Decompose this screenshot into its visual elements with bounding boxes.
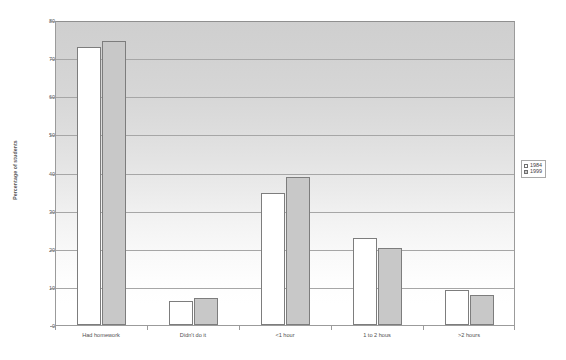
- y-tick-label: 50: [9, 132, 55, 138]
- y-tick-label: 30: [9, 209, 55, 215]
- y-tick-label: 70: [9, 56, 55, 62]
- gridline: [56, 59, 514, 60]
- y-axis: 01020304050607080: [0, 0, 55, 360]
- gridline: [56, 250, 514, 251]
- legend-label: 1999: [530, 169, 542, 174]
- x-axis-label: 1 to 2 hous: [363, 332, 391, 338]
- gridline: [56, 174, 514, 175]
- gridline: [56, 288, 514, 289]
- x-axis-label: <1 hour: [275, 332, 294, 338]
- x-tick-mark: [514, 326, 515, 330]
- legend-item-1999: 1999: [524, 169, 542, 174]
- plot-area: [55, 21, 515, 326]
- x-axis-label: Didn't do it: [180, 332, 206, 338]
- legend-swatch-1999-icon: [524, 170, 528, 174]
- x-axis-labels: Had homeworkDidn't do it<1 hour1 to 2 ho…: [55, 332, 515, 350]
- y-tick-label: 10: [9, 285, 55, 291]
- y-tick-label: 60: [9, 94, 55, 100]
- x-tick-mark: [423, 326, 424, 330]
- y-tick-label: 20: [9, 247, 55, 253]
- gridline: [56, 212, 514, 213]
- x-tick-mark: [331, 326, 332, 330]
- y-tick-label: 80: [9, 18, 55, 24]
- legend: 19841999: [521, 160, 546, 178]
- x-axis-label: Had homework: [82, 332, 120, 338]
- gridline: [56, 97, 514, 98]
- x-axis-label: >2 hours: [458, 332, 480, 338]
- x-tick-mark: [147, 326, 148, 330]
- gridline: [56, 135, 514, 136]
- y-tick-label: 0: [9, 323, 55, 329]
- x-tick-mark: [239, 326, 240, 330]
- bar-chart: Percentage of students 01020304050607080…: [0, 0, 566, 360]
- y-tick-label: 40: [9, 171, 55, 177]
- legend-swatch-1984-icon: [524, 164, 528, 168]
- x-tick-mark: [55, 326, 56, 330]
